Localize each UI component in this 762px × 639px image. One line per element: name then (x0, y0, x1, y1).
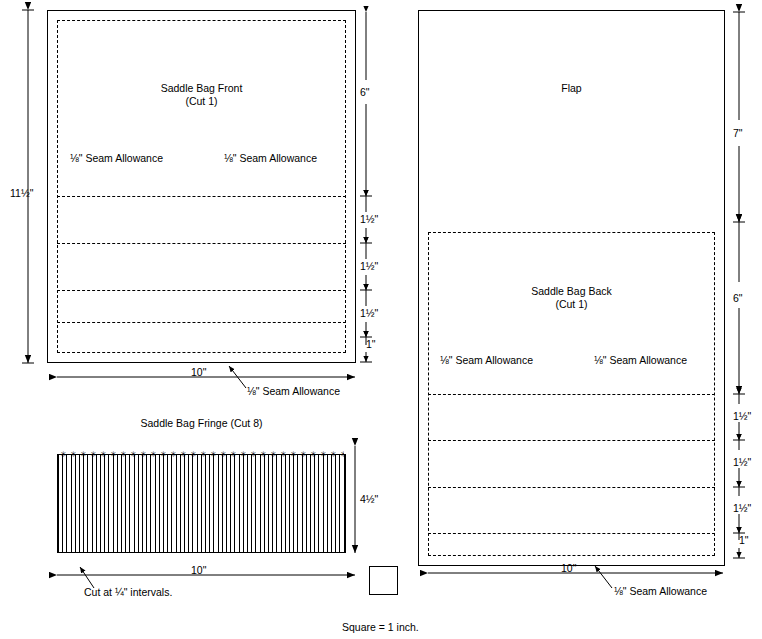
saddle-bag-back-label-line2: (Cut 1) (418, 298, 725, 310)
front-band2-dimension-label: 1½" (360, 260, 378, 272)
scale-square (369, 566, 398, 595)
front-height-dimension-label: 11½" (10, 187, 33, 199)
flap-height-dimension-label: 7" (733, 127, 743, 139)
back-band2-dimension-label: 1½" (733, 456, 751, 468)
back-left-seam-allowance-label: ⅛" Seam Allowance (440, 354, 533, 366)
scale-note-label: Square = 1 inch. (342, 621, 419, 633)
saddle-bag-back-label-line1: Saddle Bag Back (418, 285, 725, 297)
flap-outline (418, 10, 725, 223)
saddle-bag-front-label-line2: (Cut 1) (47, 95, 356, 107)
back-bottom-seam-allowance-label: ⅛" Seam Allowance (614, 585, 707, 597)
back-band4-dimension-label: 1" (739, 534, 749, 546)
fringe-stitch-marks: ✳✳✳✳✳✳✳✳✳✳✳✳✳✳✳✳✳✳✳✳✳✳✳✳✳✳✳✳✳✳✳✳✳✳✳✳✳✳✳✳… (60, 451, 344, 459)
back-height-dimension-label: 6" (733, 292, 743, 304)
fringe-height-dimension-label: 4½" (360, 493, 378, 505)
saddle-bag-front-seam-line (57, 20, 346, 353)
pattern-diagram: Saddle Bag Front (Cut 1) 11½" 10" 6" 1½"… (0, 0, 762, 639)
fringe-width-dimension-label: 10" (191, 564, 206, 576)
front-band1-dimension-label: 1½" (360, 213, 378, 225)
back-right-seam-allowance-label: ⅛" Seam Allowance (594, 354, 687, 366)
fringe-comb (57, 443, 346, 553)
fringe-cut-interval-note: Cut at ¼" intervals. (84, 586, 172, 598)
fringe-title-label: Saddle Bag Fringe (Cut 8) (57, 417, 346, 429)
back-stitch-line-3 (428, 487, 715, 488)
back-width-dimension-label: 10" (561, 562, 576, 574)
back-stitch-line-2 (428, 440, 715, 441)
front-stitch-line-2 (57, 243, 346, 244)
front-band4-dimension-label: 1" (366, 338, 376, 350)
saddle-bag-front-label-line1: Saddle Bag Front (47, 82, 356, 94)
front-stitch-line-1 (57, 196, 346, 197)
back-band3-dimension-label: 1½" (733, 502, 751, 514)
back-band1-dimension-label: 1½" (733, 410, 751, 422)
front-right-seam-allowance-label: ⅛" Seam Allowance (224, 152, 317, 164)
front-bottom-seam-allowance-label: ⅛" Seam Allowance (247, 385, 340, 397)
front-top-section-dimension-label: 6" (360, 86, 370, 98)
back-stitch-line-4 (428, 533, 715, 534)
front-left-seam-allowance-label: ⅛" Seam Allowance (70, 152, 163, 164)
front-stitch-line-3 (57, 290, 346, 291)
front-width-dimension-label: 10" (191, 366, 206, 378)
back-stitch-line-1 (428, 394, 715, 395)
front-stitch-line-4 (57, 322, 346, 323)
flap-label: Flap (418, 82, 725, 94)
front-band3-dimension-label: 1½" (360, 307, 378, 319)
